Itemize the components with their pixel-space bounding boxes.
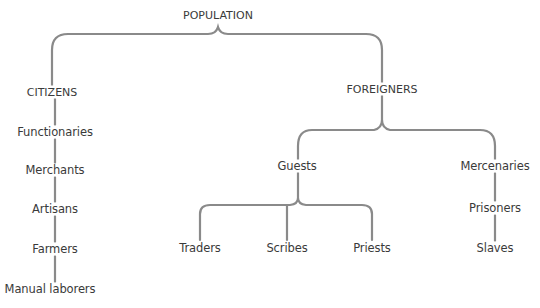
- node-merchants: Merchants: [24, 164, 85, 177]
- node-manual-laborers: Manual laborers: [4, 283, 97, 296]
- brace-population: [52, 27, 382, 88]
- node-foreigners: FOREIGNERS: [345, 83, 418, 96]
- brace-guests-right: [298, 198, 372, 240]
- node-functionaries: Functionaries: [16, 126, 94, 139]
- node-traders: Traders: [178, 242, 222, 255]
- node-scribes: Scribes: [265, 242, 308, 255]
- node-prisoners: Prisoners: [468, 202, 522, 215]
- node-artisans: Artisans: [31, 203, 79, 216]
- brace-foreigners-right: [382, 120, 495, 160]
- connector-lines: [0, 0, 540, 308]
- node-slaves: Slaves: [476, 242, 515, 255]
- node-mercenaries: Mercenaries: [459, 160, 530, 173]
- node-population: POPULATION: [182, 9, 254, 22]
- brace-guests: [200, 172, 298, 240]
- node-farmers: Farmers: [31, 243, 78, 256]
- node-guests: Guests: [276, 160, 317, 173]
- node-citizens: CITIZENS: [26, 86, 79, 99]
- brace-foreigners: [298, 93, 382, 160]
- population-hierarchy-diagram: POPULATION CITIZENS Functionaries Mercha…: [0, 0, 540, 308]
- node-priests: Priests: [352, 242, 392, 255]
